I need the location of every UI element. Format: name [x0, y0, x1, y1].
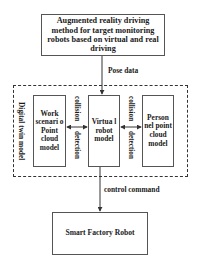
right-detection-label: detection	[127, 131, 135, 159]
ar-driving-method-label: Augmented reality driving method for tar…	[45, 16, 161, 54]
virtual-robot-label: Virtua l robot model	[89, 118, 119, 144]
work-scenario-label: Work scenari o Point cloud model	[35, 110, 64, 153]
personnel-label: Person nel point cloud model	[143, 114, 173, 148]
smart-factory-robot-label: Smart Factory Robot	[65, 229, 134, 238]
pose-data-label: Pose data	[108, 66, 138, 75]
personnel-point-cloud-box: Person nel point cloud model	[142, 95, 174, 167]
left-detection-label: detection	[73, 131, 81, 159]
right-collision-label: collision	[127, 96, 135, 121]
digital-twin-label: Digital twin model	[17, 95, 26, 167]
left-collision-label: collision	[73, 96, 81, 121]
smart-factory-robot-box: Smart Factory Robot	[52, 212, 148, 255]
ar-driving-method-box: Augmented reality driving method for tar…	[41, 14, 165, 56]
work-scenario-point-cloud-box: Work scenari o Point cloud model	[33, 95, 66, 167]
control-command-label: control command	[104, 185, 160, 194]
virtual-robot-model-box: Virtua l robot model	[88, 95, 120, 167]
